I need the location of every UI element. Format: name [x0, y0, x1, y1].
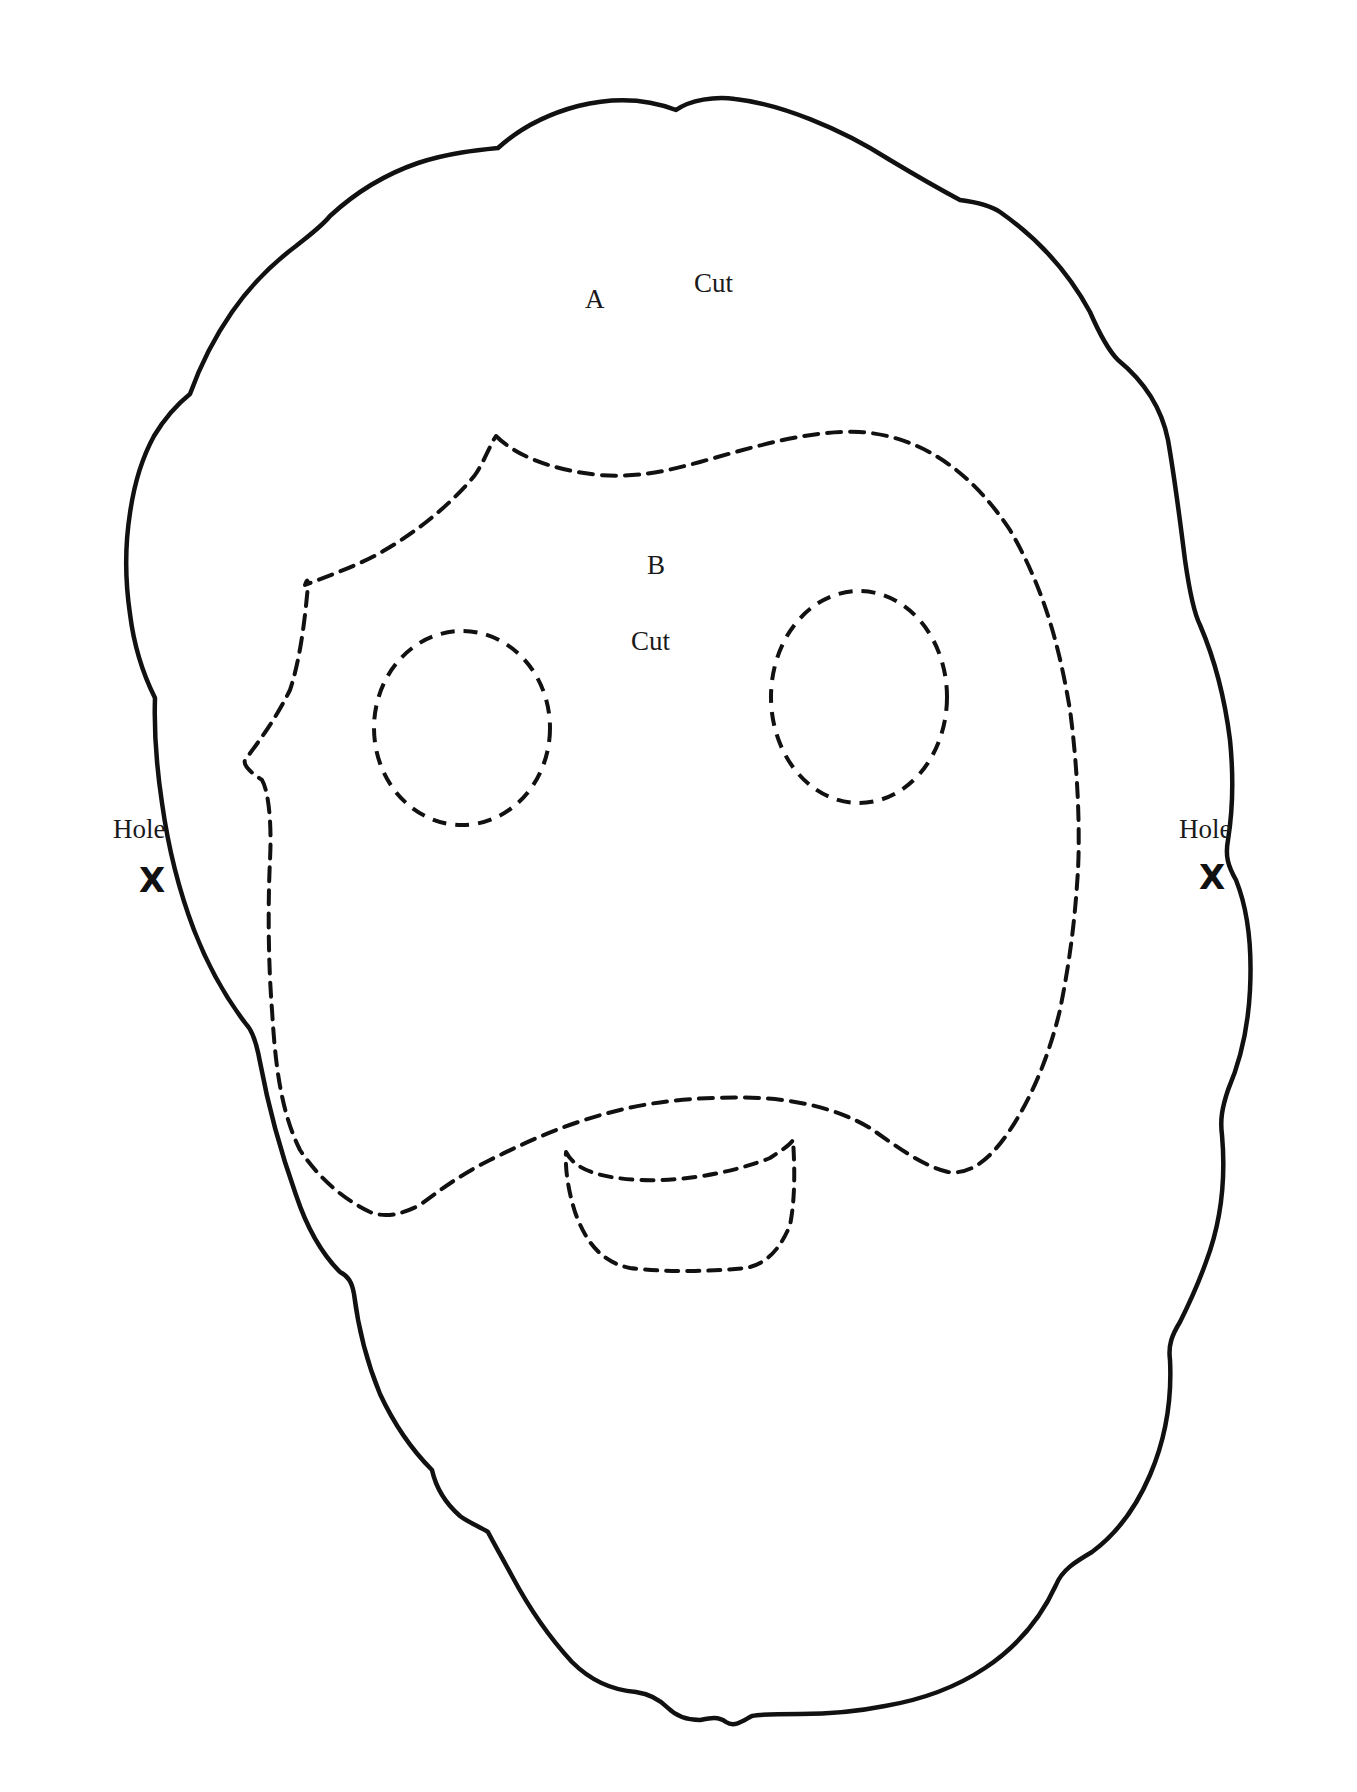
mask-template-page: A Cut B Cut Hole Hole X X: [0, 0, 1357, 1792]
dashed-cut-lines: [0, 0, 1357, 1792]
right-hole-label: Hole: [1179, 816, 1231, 843]
left-eye-dashed-line: [374, 631, 550, 825]
outer-cut-instruction: Cut: [694, 270, 733, 297]
right-hole-x-mark[interactable]: X: [1199, 860, 1225, 894]
left-hole-x-mark[interactable]: X: [139, 863, 165, 897]
right-eye-dashed-line: [771, 591, 947, 803]
outer-piece-letter: A: [585, 286, 605, 313]
left-hole-label: Hole: [113, 816, 165, 843]
inner-cut-instruction: Cut: [631, 628, 670, 655]
mouth-dashed-line: [566, 1140, 794, 1271]
inner-piece-letter: B: [647, 552, 665, 579]
